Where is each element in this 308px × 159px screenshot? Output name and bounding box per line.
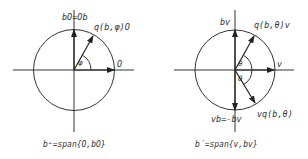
- left-label-O: O: [117, 59, 122, 69]
- left-diagram: φ bO=Ob q(b,φ)O O b⁺=span{O,bO}: [13, 10, 134, 149]
- left-caption: b⁺=span{O,bO}: [43, 140, 106, 149]
- right-angle-lower-label: θ: [238, 74, 243, 83]
- right-label-bv: bv: [220, 17, 231, 27]
- right-label-rotated-down: vq(b,θ): [257, 109, 293, 119]
- left-angle-arc: [82, 55, 91, 70]
- right-label-vb: vb=-bv: [211, 114, 243, 124]
- left-label-bO: bO=Ob: [62, 12, 88, 22]
- right-diagram: θ θ bv q(b,θ)v v vq(b,θ) vb=-bv b′=span{…: [174, 10, 294, 149]
- right-angle-upper-label: θ: [238, 59, 243, 68]
- right-caption: b′=span{v,bv}: [195, 140, 258, 149]
- left-label-rotated: q(b,φ)O: [94, 22, 130, 32]
- diagram-canvas: φ bO=Ob q(b,φ)O O b⁺=span{O,bO} θ θ bv q…: [0, 0, 308, 159]
- left-angle-label: φ: [78, 58, 83, 67]
- right-label-v: v: [277, 59, 283, 69]
- right-label-rotated-up: q(b,θ)v: [254, 20, 291, 30]
